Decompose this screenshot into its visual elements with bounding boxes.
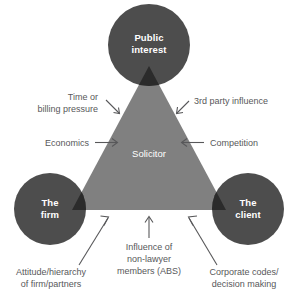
annotation-attitude-hierarchy-line1: Attitude/hierarchy	[16, 267, 87, 277]
arrow-economics	[95, 139, 118, 147]
arrow-competition	[182, 139, 205, 147]
annotation-time-billing-line1: Time or	[68, 92, 98, 102]
node-the-firm-label-line2: firm	[41, 209, 59, 220]
annotation-third-party-influence-line1: 3rd party influence	[194, 96, 268, 106]
annotation-competition-label: Competition	[210, 138, 258, 148]
node-the-firm-label-line1: The	[41, 197, 58, 208]
annotation-time-billing-line2: billing pressure	[37, 104, 98, 114]
arrow-third-party-influence	[177, 101, 190, 114]
influence-diagram: Public interest The firm The client Soli…	[0, 0, 298, 307]
annotation-influence-abs-line1: Influence of	[126, 242, 173, 252]
solicitor-triangle	[72, 66, 226, 210]
node-the-client-label-line1: The	[239, 197, 256, 208]
annotation-attitude-hierarchy-line2: of firm/partners	[21, 279, 82, 289]
arrow-corporate-codes	[189, 216, 218, 265]
node-the-client-label-line2: client	[235, 209, 261, 220]
node-public-interest-label-line2: interest	[131, 44, 167, 55]
center-label-solicitor: Solicitor	[132, 148, 166, 159]
node-public-interest-label-line1: Public	[134, 32, 163, 43]
arrow-time-billing-pressure	[106, 100, 120, 114]
arrow-attitude-hierarchy	[79, 216, 109, 265]
diagram-canvas: Public interest The firm The client Soli…	[0, 0, 298, 307]
annotation-influence-abs-line3: members (ABS)	[117, 266, 181, 276]
annotation-corporate-codes-line2: decision making	[212, 279, 277, 289]
annotation-economics-label: Economics	[45, 138, 90, 148]
annotation-influence-abs-line2: non-lawyer	[127, 254, 171, 264]
arrow-influence-abs	[145, 217, 153, 239]
annotation-corporate-codes-line1: Corporate codes/	[209, 267, 279, 277]
